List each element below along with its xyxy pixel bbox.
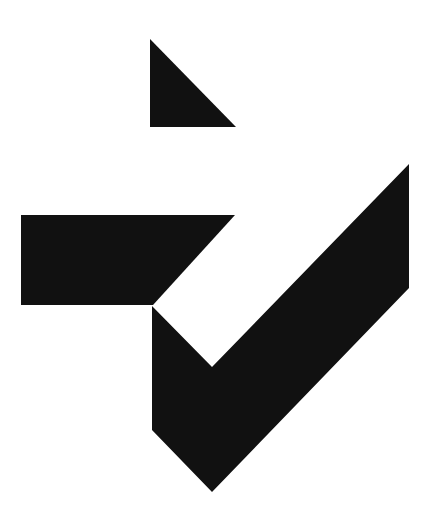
tangram-canvas <box>0 0 430 516</box>
checkmark-body <box>152 164 409 492</box>
top-triangle <box>150 39 236 127</box>
horizontal-parallelogram <box>21 215 235 305</box>
tangram-figure <box>0 0 430 516</box>
